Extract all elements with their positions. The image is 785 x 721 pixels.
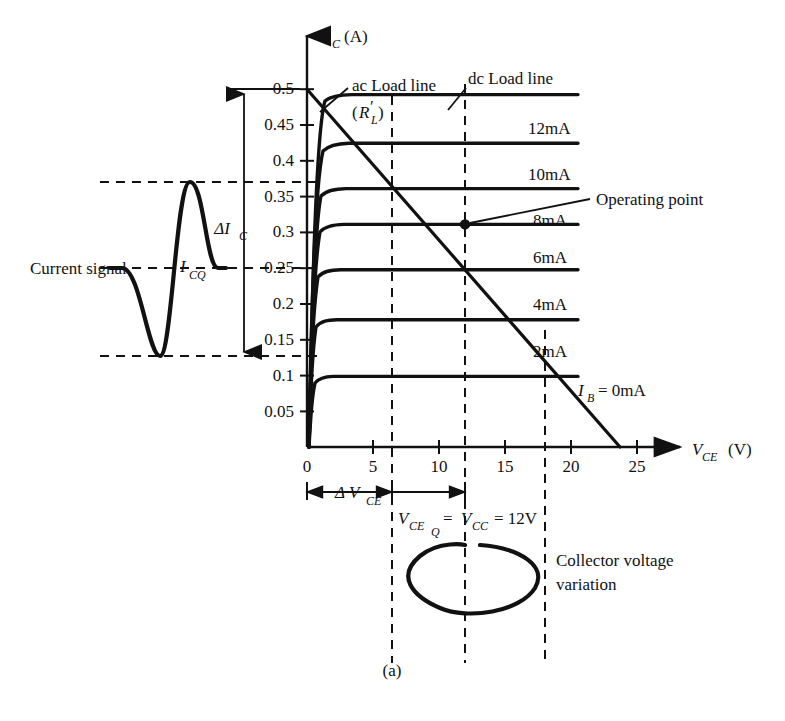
y-axis-title: I C (A) bbox=[321, 27, 368, 51]
y-axis-title-main: I bbox=[321, 27, 329, 46]
delta-ic-measure: ΔI C bbox=[213, 94, 248, 352]
operating-point-leader bbox=[470, 199, 590, 223]
x-tick-label: 20 bbox=[563, 457, 580, 476]
collector-voltage-waveform bbox=[408, 544, 538, 613]
delta-vce-label-main: Δ V bbox=[334, 483, 362, 502]
y-tick-label: 0.45 bbox=[264, 115, 294, 134]
curve-label-6ma: 6mA bbox=[533, 248, 568, 267]
y-tick-label: 0.05 bbox=[264, 402, 294, 421]
operating-point-dot[interactable] bbox=[460, 219, 470, 229]
collector-voltage-label-line1: Collector voltage bbox=[556, 551, 674, 570]
collector-voltage-variation-group: Collector voltage variation bbox=[408, 544, 673, 613]
delta-ic-label-main: ΔI bbox=[213, 219, 231, 238]
figure-caption: (a) bbox=[383, 661, 402, 680]
curve-label-12ma: 12mA bbox=[528, 119, 571, 138]
ac-paren-close: ) bbox=[378, 103, 384, 122]
curve-ib-0ma bbox=[309, 376, 578, 447]
ac-R-symbol: R bbox=[358, 103, 370, 122]
x-axis-title-sub: CE bbox=[702, 450, 718, 464]
ib-label-sub: B bbox=[587, 391, 595, 405]
x-tick-label: 5 bbox=[369, 457, 378, 476]
characteristic-curves bbox=[309, 95, 578, 447]
y-tick-label: 0.2 bbox=[273, 294, 294, 313]
ac-load-line-label: ac Load line bbox=[352, 76, 436, 95]
vceq-sub1b: Q bbox=[431, 525, 440, 539]
y-tick-label: 0.35 bbox=[264, 187, 294, 206]
y-axis-title-sub: C bbox=[332, 37, 341, 51]
ac-load-line-annotation: ac Load line ( R L ′ ) bbox=[320, 76, 436, 127]
vceq-eq1: = bbox=[443, 509, 453, 528]
y-tick-label: 0.1 bbox=[273, 366, 294, 385]
icq-label: I CQ bbox=[179, 257, 206, 282]
x-tick-label: 25 bbox=[629, 457, 646, 476]
vceq-expression: V CE Q = V CC = 12V bbox=[398, 509, 538, 539]
ac-load-line-resistance-label: ( R L ′ ) bbox=[352, 97, 384, 127]
y-axis-title-unit: (A) bbox=[344, 27, 368, 46]
curve-label-ib-0ma: I B = 0mA bbox=[577, 381, 647, 405]
curve-label-8ma: 8mA bbox=[533, 211, 568, 230]
icq-label-sub: CQ bbox=[189, 268, 206, 282]
vceq-sub1: CE bbox=[409, 519, 425, 533]
x-axis-title: V CE (V) bbox=[692, 440, 752, 464]
vceq-measure: V CE Q = V CC = 12V bbox=[392, 482, 538, 539]
x-axis-title-unit: (V) bbox=[728, 440, 752, 459]
ib-label-main: I bbox=[577, 381, 585, 400]
dc-load-line-label: dc Load line bbox=[468, 69, 553, 88]
x-tick-label: 15 bbox=[497, 457, 514, 476]
ac-paren-open: ( bbox=[352, 103, 358, 122]
y-tick-label: 0.4 bbox=[273, 151, 295, 170]
curve-label-2ma: 2mA bbox=[533, 342, 568, 361]
characteristic-curves-figure: I C (A) V CE (V) 0.05 0.1 0.15 0.2 0.25 … bbox=[0, 0, 785, 721]
figure-container: I C (A) V CE (V) 0.05 0.1 0.15 0.2 0.25 … bbox=[0, 0, 785, 721]
delta-vce-label-sub: CE bbox=[366, 494, 382, 508]
x-tick-group: 0 5 10 15 20 25 bbox=[303, 440, 646, 476]
delta-ic-label-sub: C bbox=[239, 229, 248, 243]
ac-R-prime: ′ bbox=[370, 97, 374, 116]
curve-label-10ma: 10mA bbox=[528, 165, 571, 184]
vceq-sub2: CC bbox=[472, 519, 489, 533]
curve-label-4ma: 4mA bbox=[533, 295, 568, 314]
operating-point-label: Operating point bbox=[596, 190, 703, 209]
icq-label-main: I bbox=[179, 257, 187, 276]
dc-load-line-annotation: dc Load line bbox=[448, 69, 553, 110]
delta-vce-measure: Δ V CE bbox=[307, 482, 392, 508]
x-tick-label: 0 bbox=[303, 457, 312, 476]
current-signal-label: Current signal bbox=[30, 259, 127, 278]
x-tick-label: 10 bbox=[431, 457, 448, 476]
vceq-eq2: = 12V bbox=[494, 509, 538, 528]
y-tick-label: 0.15 bbox=[264, 330, 294, 349]
curve-ib-2ma bbox=[309, 320, 578, 447]
collector-voltage-label-line2: variation bbox=[556, 575, 617, 594]
dc-load-line-leader bbox=[448, 88, 466, 110]
current-signal-group: Current signal I CQ bbox=[30, 182, 226, 356]
vertical-markers bbox=[392, 84, 545, 663]
y-tick-label: 0.3 bbox=[273, 222, 294, 241]
ib-label-rest: = 0mA bbox=[598, 381, 647, 400]
